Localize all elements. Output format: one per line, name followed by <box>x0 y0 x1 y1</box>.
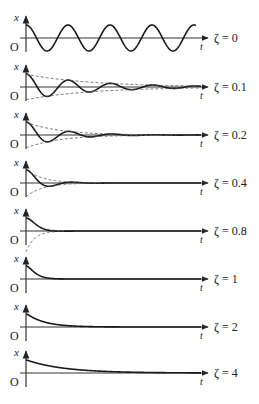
t-axis-label: t <box>200 330 203 341</box>
y-axis-label: x <box>13 300 19 312</box>
zeta-label: ζ = 1 <box>214 272 238 286</box>
y-axis-label: x <box>13 108 19 120</box>
zeta-label: ζ = 2 <box>214 320 238 334</box>
zeta-label: ζ = 0.2 <box>214 128 247 142</box>
origin-label: O <box>10 329 19 343</box>
t-axis-label: t <box>200 90 203 101</box>
y-axis-label: x <box>13 11 19 23</box>
y-axis-label: x <box>13 156 19 168</box>
response-curve <box>26 266 201 279</box>
panel-zeta-2: xOtζ = 2 <box>10 300 238 343</box>
origin-label: O <box>10 375 19 389</box>
response-curve <box>26 170 201 186</box>
response-curve <box>26 122 201 142</box>
t-axis-label: t <box>200 186 203 197</box>
zeta-label: ζ = 0.4 <box>214 176 247 190</box>
origin-label: O <box>10 233 19 247</box>
origin-label: O <box>10 137 19 151</box>
zeta-label: ζ = 4 <box>214 366 238 380</box>
zeta-label: ζ = 0.8 <box>214 224 247 238</box>
lower-envelope <box>26 231 64 252</box>
panel-zeta-4: xOtζ = 4 <box>10 346 238 389</box>
response-curve <box>26 74 201 96</box>
y-axis-label: x <box>13 346 19 358</box>
t-axis-label: t <box>200 282 203 293</box>
upper-envelope <box>26 122 176 135</box>
t-axis-label: t <box>200 376 203 387</box>
response-curve <box>26 360 201 373</box>
panel-zeta-0-2: xOtζ = 0.2 <box>10 108 247 151</box>
y-axis-label: x <box>13 252 19 264</box>
origin-label: O <box>10 89 19 103</box>
damping-response-figure: xOtζ = 0xOtζ = 0.1xOtζ = 0.2xOtζ = 0.4xO… <box>0 0 259 404</box>
panel-zeta-0-8: xOtζ = 0.8 <box>10 204 247 252</box>
response-curve <box>26 314 201 327</box>
t-axis-label: t <box>200 138 203 149</box>
lower-envelope <box>26 183 101 197</box>
zeta-label: ζ = 0.1 <box>214 80 247 94</box>
zeta-label: ζ = 0 <box>214 31 238 45</box>
y-axis-label: x <box>13 60 19 72</box>
origin-label: O <box>10 40 19 54</box>
t-axis-label: t <box>200 41 203 52</box>
panel-zeta-0-1: xOtζ = 0.1 <box>10 60 247 103</box>
panel-zeta-0-4: xOtζ = 0.4 <box>10 156 247 199</box>
origin-label: O <box>10 185 19 199</box>
response-curve <box>26 218 201 231</box>
t-axis-label: t <box>200 234 203 245</box>
y-axis-label: x <box>13 204 19 216</box>
origin-label: O <box>10 281 19 295</box>
panel-zeta-0: xOtζ = 0 <box>10 11 238 54</box>
panel-zeta-1: xOtζ = 1 <box>10 252 238 295</box>
upper-envelope <box>26 210 64 231</box>
